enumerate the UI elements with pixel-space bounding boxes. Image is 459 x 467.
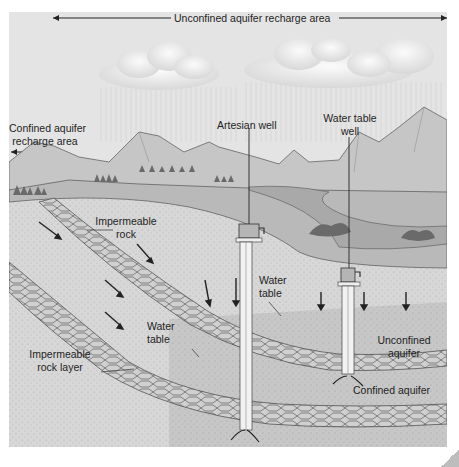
impermeable-rock-label: Impermeable rock [91,215,161,241]
label-line: Water table [315,112,385,125]
label-line: well [315,125,385,138]
label-line: recharge area [9,135,81,148]
water-table-left-label: Water table [147,320,175,346]
label-line: Water [147,320,175,333]
unconfined-aquifer-label: Unconfined aquifer [369,334,439,360]
aquifer-diagram: Unconfined aquifer recharge area Confine… [9,12,447,447]
label-line: rock layer [19,361,101,374]
impermeable-rock-layer-label: Impermeable rock layer [19,348,101,374]
artesian-well-label: Artesian well [217,119,277,132]
water-table-well-label: Water table well [315,112,385,138]
label-line: Impermeable [91,215,161,228]
label-line: table [259,287,287,300]
label-line: Impermeable [19,348,101,361]
water-table-right-label: Water table [259,274,287,300]
rain-left [99,87,239,142]
label-line: Water [259,274,287,287]
label-line: Unconfined [369,334,439,347]
confined-recharge-area-label: Confined aquifer recharge area [9,122,81,148]
confined-aquifer-label: Confined aquifer [353,384,430,397]
diagram-artwork [9,12,447,447]
label-line: table [147,333,175,346]
page-curl-decoration [441,449,459,467]
label-line: rock [91,228,161,241]
unconfined-recharge-area-label: Unconfined aquifer recharge area [171,12,333,25]
label-line: Confined aquifer [9,122,81,135]
label-line: aquifer [369,347,439,360]
